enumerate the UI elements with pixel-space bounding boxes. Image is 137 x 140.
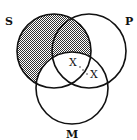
label-s: S (5, 15, 13, 28)
mark-x-2: X (90, 68, 98, 81)
label-p: P (125, 15, 133, 28)
label-m: M (66, 128, 78, 140)
mark-x-1: X (69, 56, 77, 69)
dot (86, 73, 87, 74)
dot (82, 69, 83, 70)
dot (79, 66, 80, 67)
venn-diagram: S P M X X (0, 0, 137, 140)
